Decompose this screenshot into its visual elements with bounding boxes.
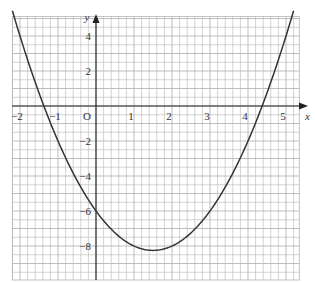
y-tick-label: 2	[86, 65, 92, 77]
x-tick-label: −1	[49, 110, 61, 122]
x-tick-label: 1	[128, 110, 134, 122]
x-tick-label: 3	[204, 110, 210, 122]
y-tick-label: −8	[79, 240, 91, 252]
y-tick-label: 4	[86, 30, 92, 42]
x-tick-label: 2	[166, 110, 172, 122]
x-axis-arrow-icon	[299, 103, 308, 110]
x-tick-label: 4	[242, 110, 248, 122]
origin-label: O	[83, 110, 91, 122]
curve-layer	[12, 11, 293, 251]
x-axis-label: x	[304, 110, 310, 122]
quadratic-graph: −2−11234542−2−4−6−8Oxy	[0, 0, 315, 282]
y-axis-label: y	[84, 11, 90, 23]
y-tick-label: −4	[79, 170, 91, 182]
grid-border	[12, 17, 299, 281]
grid-lines	[12, 17, 299, 281]
x-tick-label: −2	[11, 110, 23, 122]
x-tick-label: 5	[280, 110, 286, 122]
parabola-curve	[12, 11, 293, 251]
y-tick-label: −6	[79, 205, 91, 217]
y-tick-label: −2	[79, 135, 91, 147]
tick-labels: −2−11234542−2−4−6−8Oxy	[11, 11, 310, 252]
